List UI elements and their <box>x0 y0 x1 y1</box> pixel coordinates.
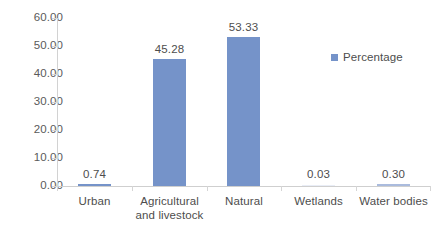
bar-urban[interactable] <box>78 184 111 186</box>
bar-value-label-water-bodies: 0.30 <box>368 168 419 180</box>
bar-value-label-urban: 0.74 <box>69 168 120 180</box>
bar-value-label-natural: 53.33 <box>218 21 269 33</box>
bar-agricultural-and-livestock[interactable] <box>153 59 186 186</box>
bar-value-label-agricultural-and-livestock: 45.28 <box>144 43 195 55</box>
bar-water-bodies[interactable] <box>377 184 410 186</box>
x-axis-category-label-wetlands: Wetlands <box>281 194 356 208</box>
x-axis-category-label-water-bodies: Water bodies <box>356 194 431 208</box>
bar-wetlands[interactable] <box>302 185 335 186</box>
x-axis-category-label-agricultural-and-livestock: Agricultural and livestock <box>132 194 207 222</box>
legend-square-marker-icon <box>331 54 338 61</box>
chart-legend: Percentage <box>331 51 403 63</box>
x-axis-category-label-natural: Natural <box>207 194 281 208</box>
x-axis-category-label-urban: Urban <box>57 194 132 208</box>
bar-value-label-wetlands: 0.03 <box>293 168 344 180</box>
bar-chart: 60.00 50.00 40.00 30.00 20.00 10.00 0.00… <box>0 0 441 231</box>
bar-natural[interactable] <box>227 37 260 186</box>
legend-entry-label[interactable]: Percentage <box>343 51 403 63</box>
